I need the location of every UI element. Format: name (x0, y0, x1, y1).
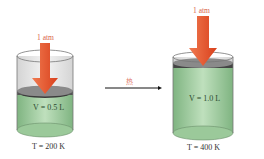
right-volume-label: V = 1.0 L (189, 94, 220, 103)
left-temperature-label: T = 200 K (32, 142, 65, 151)
right-temperature-label: T = 400 K (187, 143, 220, 152)
left-volume-label: V = 0.5 L (33, 103, 64, 112)
left-cylinder (17, 43, 73, 137)
left-pressure-label: 1 atm (37, 33, 54, 42)
process-label: 热 (126, 76, 133, 86)
right-cylinder (173, 16, 233, 140)
right-pressure-label: 1 atm (193, 6, 210, 15)
